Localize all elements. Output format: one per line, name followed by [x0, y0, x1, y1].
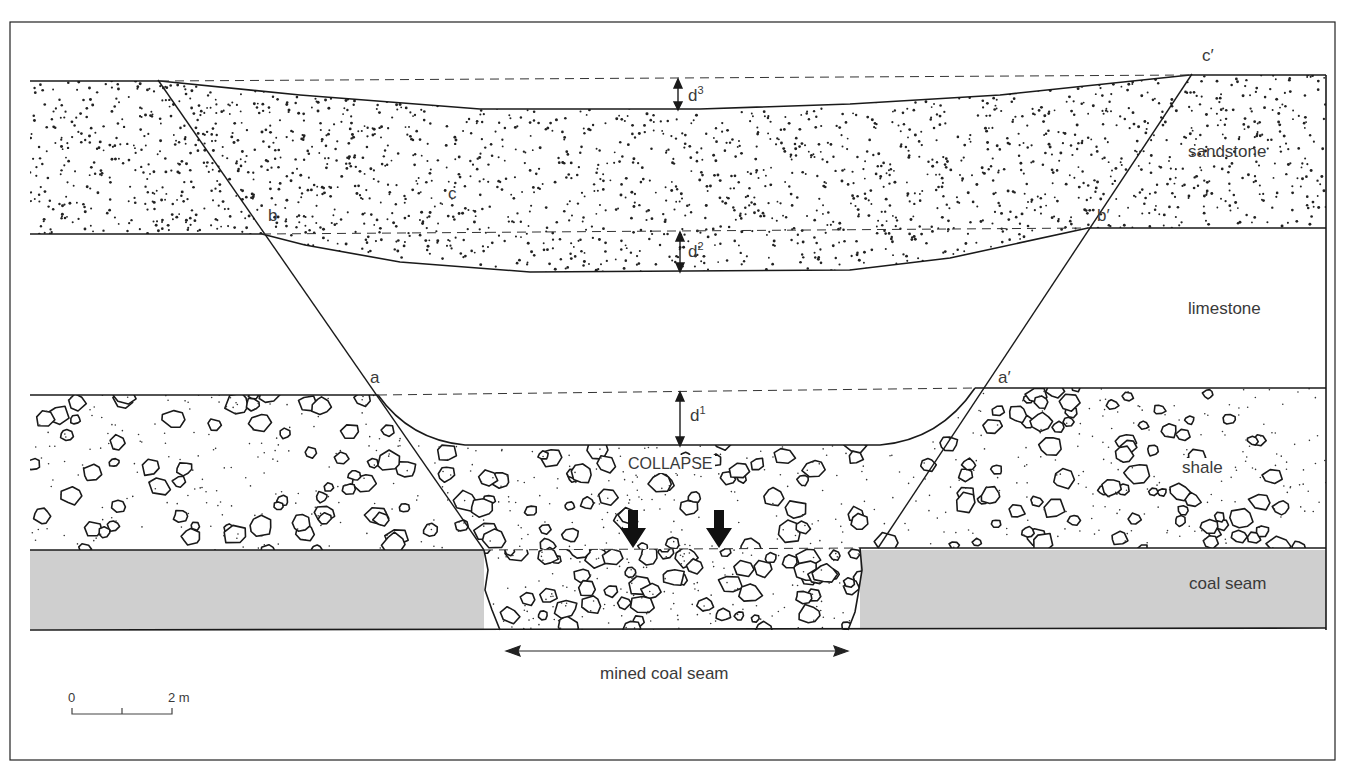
point-a: a	[370, 368, 379, 388]
label-sandstone: sandstone	[1188, 142, 1266, 162]
scale-start: 0	[68, 690, 75, 705]
scale-bar	[72, 708, 172, 714]
d3-sup: 3	[697, 84, 703, 96]
point-b: b	[268, 206, 277, 226]
d1-sup: 1	[699, 404, 705, 416]
point-c: c	[448, 184, 457, 204]
fracture-lines	[158, 74, 1192, 550]
label-mined-coal-seam: mined coal seam	[600, 664, 729, 684]
point-c-prime: c′	[1202, 46, 1214, 66]
scale-end: 2 m	[168, 690, 190, 705]
label-coal-seam: coal seam	[1189, 574, 1266, 594]
original-levels	[160, 75, 1190, 550]
label-limestone: limestone	[1188, 299, 1261, 319]
label-collapse: COLLAPSE	[625, 455, 715, 473]
mined-coal-seam-arrow	[506, 646, 848, 656]
collapse-rubble	[480, 541, 871, 636]
cross-section-diagram: sandstone limestone shale coal seam c′ c…	[0, 0, 1345, 776]
label-d1: d1	[690, 404, 706, 426]
label-d3: d3	[688, 84, 704, 106]
point-a-prime: a′	[998, 368, 1011, 388]
point-b-prime: b′	[1097, 206, 1110, 226]
d2-sup: 2	[697, 240, 703, 252]
frame	[10, 22, 1335, 760]
label-shale: shale	[1180, 458, 1225, 478]
label-d2: d2	[688, 240, 704, 262]
